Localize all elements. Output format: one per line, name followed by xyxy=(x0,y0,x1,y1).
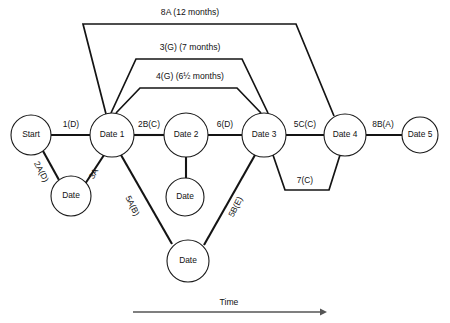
node-start-label: Start xyxy=(22,129,40,139)
bracket-label-8a: 8A (12 months) xyxy=(161,7,219,17)
edge-label-6d: 6(D) xyxy=(217,119,233,129)
node-date2-label: Date 2 xyxy=(174,129,199,139)
node-date-lower-left-label: Date xyxy=(62,190,80,200)
node-date2[interactable]: Date 2 xyxy=(164,113,208,157)
node-date-lower-left[interactable]: Date xyxy=(51,176,91,216)
edge-label-2bc: 2B(C) xyxy=(138,119,160,129)
node-date4[interactable]: Date 4 xyxy=(324,114,366,156)
node-date1[interactable]: Date 1 xyxy=(90,113,134,157)
edge-label-8ba: 8B(A) xyxy=(372,119,394,129)
edge-label-5ab: 5A(B) xyxy=(123,194,142,218)
node-date1-label: Date 1 xyxy=(100,129,125,139)
node-date-under-date2[interactable]: Date xyxy=(166,178,204,216)
edge-label-2ad: 2A(D) xyxy=(32,160,51,184)
bracket-3g xyxy=(111,59,268,113)
bracket-4g xyxy=(116,88,261,113)
time-axis-label: Time xyxy=(220,297,239,307)
edge-label-1d: 1(D) xyxy=(63,119,79,129)
bracket-8a xyxy=(83,24,334,116)
node-date-under-date2-label: Date xyxy=(176,191,194,201)
diagram-canvas: Start Date 1 Date 2 Date 3 Date 4 Date 5… xyxy=(0,0,450,323)
node-date5[interactable]: Date 5 xyxy=(402,117,438,153)
edge-label-5be: 5B(E) xyxy=(226,195,245,219)
node-date-bottom[interactable]: Date xyxy=(167,240,209,282)
time-axis-arrowhead xyxy=(320,308,327,315)
edge-label-7c: 7(C) xyxy=(297,175,313,185)
node-date-bottom-label: Date xyxy=(179,255,197,265)
network-diagram: Start Date 1 Date 2 Date 3 Date 4 Date 5… xyxy=(0,0,450,323)
node-start[interactable]: Start xyxy=(11,115,51,155)
bracket-label-4g: 4(G) (6½ months) xyxy=(156,71,224,81)
edge-label-5cc: 5C(C) xyxy=(294,119,317,129)
node-date5-label: Date 5 xyxy=(408,129,433,139)
edge-datec-date3 xyxy=(204,155,255,245)
node-date3-label: Date 3 xyxy=(252,129,277,139)
bracket-label-3g: 3(G) (7 months) xyxy=(160,42,221,52)
node-date3[interactable]: Date 3 xyxy=(242,113,286,157)
node-date4-label: Date 4 xyxy=(333,129,358,139)
